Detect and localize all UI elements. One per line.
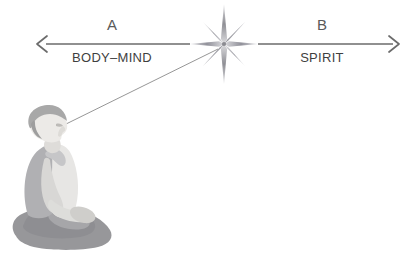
label-section-a-letter: A: [107, 16, 117, 33]
label-section-a-name: BODY–MIND: [72, 50, 152, 65]
label-section-b-letter: B: [317, 16, 327, 33]
diagram-canvas: A BODY–MIND B SPIRIT: [0, 0, 416, 259]
label-section-b-name: SPIRIT: [300, 50, 344, 65]
